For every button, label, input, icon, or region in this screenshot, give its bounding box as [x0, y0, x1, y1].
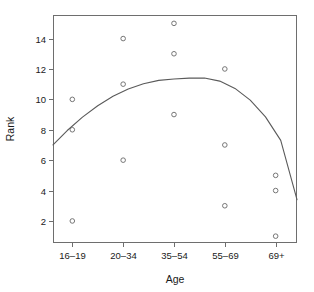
y-tick-label: 12 [35, 64, 46, 75]
plot-canvas: 2468101214 16–1920–3435–5455–6969+ Age R… [0, 0, 314, 292]
y-tick-label: 6 [41, 155, 46, 166]
y-tick-label: 10 [35, 94, 46, 105]
y-tick-label: 2 [41, 216, 46, 227]
x-axis-title: Age [166, 273, 185, 285]
scatter-plot-figure: 2468101214 16–1920–3435–5455–6969+ Age R… [0, 0, 314, 292]
x-tick-label: 55–69 [212, 250, 238, 261]
x-tick-label: 35–54 [161, 250, 187, 261]
figure-background [0, 0, 314, 292]
y-tick-label: 8 [41, 125, 46, 136]
y-axis-title: Rank [4, 116, 16, 141]
x-tick-label: 20–34 [110, 250, 136, 261]
y-tick-label: 14 [35, 34, 46, 45]
y-tick-label: 4 [41, 186, 46, 197]
x-tick-label: 69+ [268, 250, 285, 261]
x-tick-label: 16–19 [59, 250, 85, 261]
